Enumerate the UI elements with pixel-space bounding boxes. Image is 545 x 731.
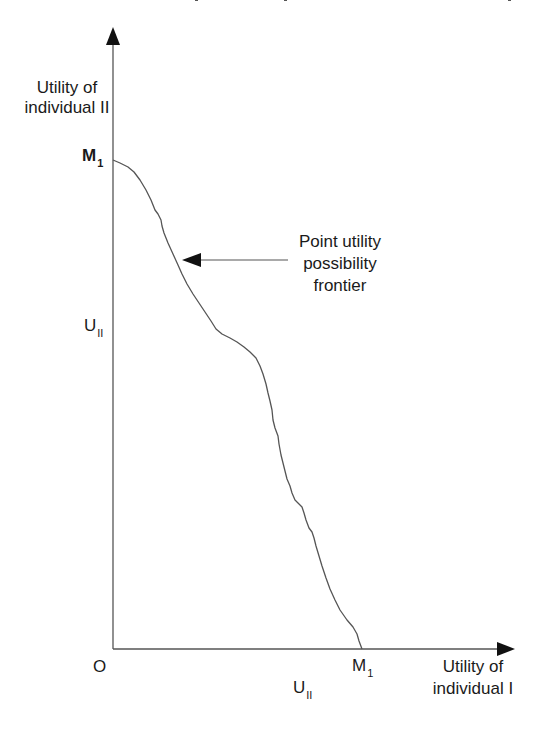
annotation-line2: possibility: [280, 253, 400, 275]
annotation-line1: Point utility: [280, 231, 400, 253]
x-axis-title-line2: individual I: [418, 678, 528, 700]
x-axis-max-label: M1: [352, 656, 373, 677]
y-axis-title-line1: Utility of: [12, 78, 122, 98]
y-axis-title: Utility of individual II: [12, 78, 122, 118]
x-axis-mid-label: UII: [293, 678, 312, 699]
x-axis-title: Utility of individual I: [418, 656, 528, 700]
origin-label: O: [93, 657, 106, 677]
y-axis-title-line2: individual II: [12, 98, 122, 118]
y-axis-max-label: M1: [82, 146, 103, 167]
frontier-annotation: Point utility possibility frontier: [280, 231, 400, 297]
annotation-line3: frontier: [280, 275, 400, 297]
y-axis-arrowhead-icon: [106, 27, 120, 45]
x-axis-arrowhead-icon: [497, 642, 515, 656]
x-axis-title-line1: Utility of: [418, 656, 528, 678]
y-axis-mid-label: UII: [84, 316, 103, 337]
annotation-arrowhead-icon: [182, 253, 201, 267]
utility-possibility-diagram: Utility of individual II M1 UII Point ut…: [0, 0, 545, 731]
